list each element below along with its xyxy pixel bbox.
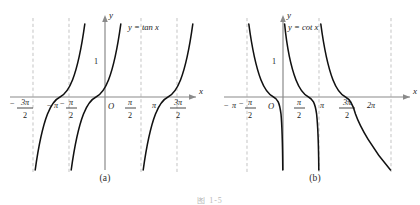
x-tick-pi: π [152, 101, 157, 110]
x-axis-arrow [403, 94, 410, 100]
x-tick-neg-pi-sign: − [224, 101, 229, 110]
origin-label: O [268, 101, 274, 111]
x-tick-pi: π [320, 101, 325, 110]
origin-label: O [108, 101, 114, 111]
trig-graphs-figure: x y y = tan x O 1 − 3π 2 − π − [0, 0, 420, 205]
x-tick-neg-pi-symbol: π [232, 101, 237, 110]
y-axis-arrow [102, 15, 108, 22]
y-axis-label: y [108, 10, 113, 20]
y-axis-label: y [286, 10, 291, 20]
x-tick-pi-over-2-denominator: 2 [297, 111, 301, 120]
x-tick-neg-pi-sign: − [47, 101, 52, 110]
x-tick-neg-pi-over-2-sign: − [60, 99, 65, 108]
x-axis-label: x [412, 86, 417, 96]
x-tick-neg-3pi-over-2-sign: − [10, 99, 15, 108]
x-tick-neg-3pi-over-2-denominator: 2 [23, 111, 27, 120]
y-axis-arrow [280, 15, 286, 22]
equation-label-cot: y = cot x [287, 22, 319, 32]
x-tick-2pi: 2π [367, 101, 376, 110]
x-tick-pi-over-2: π 2 [125, 98, 136, 120]
y-tick-one: 1 [272, 57, 276, 66]
x-tick-neg-pi-over-2-denominator: 2 [248, 111, 252, 120]
panel-a-sublabel: (a) [0, 173, 210, 183]
x-tick-neg-pi-over-2: − π 2 [239, 98, 256, 120]
tangent-plot-svg: x y y = tan x O 1 − 3π 2 − π − [0, 0, 210, 175]
figure-caption: 图 1-5 [0, 197, 420, 205]
x-tick-3pi-over-2: 3π 2 [170, 98, 186, 120]
x-tick-neg-pi-over-2-sign: − [239, 99, 244, 108]
x-tick-neg-pi-over-2-numerator: π [248, 98, 253, 107]
x-tick-neg-pi-symbol: π [54, 101, 59, 110]
x-axis-arrow [189, 94, 196, 100]
x-tick-pi-over-2-numerator: π [297, 98, 302, 107]
x-tick-3pi-over-2-denominator: 2 [176, 111, 180, 120]
x-tick-3pi-over-2-numerator: 3π [342, 98, 352, 107]
x-tick-3pi-over-2: 3π 2 [339, 98, 355, 120]
x-tick-pi-over-2-denominator: 2 [128, 111, 132, 120]
x-tick-neg-pi: − π [224, 101, 237, 110]
x-tick-3pi-over-2-denominator: 2 [345, 111, 349, 120]
x-tick-neg-pi-over-2-denominator: 2 [69, 111, 73, 120]
x-tick-pi-over-2-numerator: π [128, 98, 133, 107]
x-tick-pi-over-2: π 2 [294, 98, 305, 120]
x-axis-label: x [198, 86, 203, 96]
cotangent-plot-svg: x y y = cot x O 1 − π − π 2 π [210, 0, 420, 175]
x-tick-neg-pi-over-2: − π 2 [60, 98, 77, 120]
equation-label-tan: y = tan x [127, 22, 159, 32]
x-tick-3pi-over-2-numerator: 3π [173, 98, 183, 107]
x-tick-neg-3pi-over-2-numerator: 3π [20, 98, 30, 107]
y-tick-one: 1 [94, 57, 98, 66]
panel-cotangent-graph: x y y = cot x O 1 − π − π 2 π [210, 0, 420, 205]
x-tick-neg-pi-over-2-numerator: π [69, 98, 74, 107]
panel-b-sublabel: (b) [210, 173, 420, 183]
x-tick-neg-3pi-over-2: − 3π 2 [10, 98, 33, 120]
panel-tangent-graph: x y y = tan x O 1 − 3π 2 − π − [0, 0, 210, 205]
